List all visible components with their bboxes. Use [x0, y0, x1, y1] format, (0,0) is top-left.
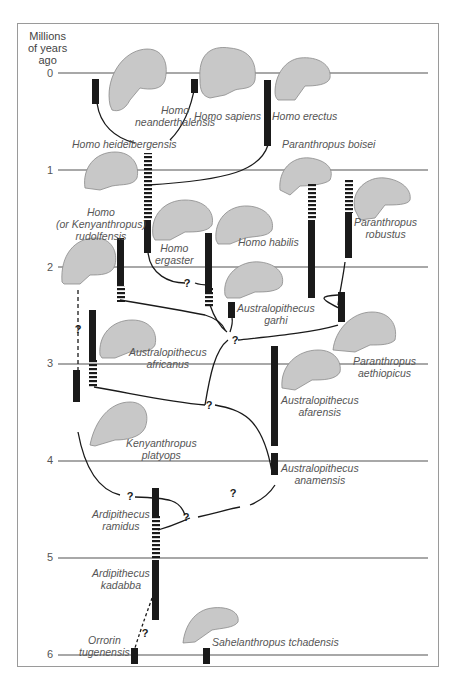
- label-africanus: Australopithecus africanus: [129, 346, 207, 370]
- bar-platyops: [73, 370, 80, 402]
- bar-orrorin: [131, 648, 138, 664]
- label-line: Homo: [155, 242, 194, 254]
- label-garhi: Australopithecus garhi: [237, 302, 315, 326]
- skull-heidelbergensis-icon: [85, 152, 138, 190]
- label-sapiens: Homo sapiens: [194, 110, 261, 122]
- bar-sahelanthropus: [203, 648, 210, 664]
- label-line: africanus: [129, 358, 207, 370]
- svg-text:?: ?: [230, 487, 237, 499]
- label-rudolfensis: Homo (or Kenyanthropus) rudolfensis: [56, 206, 146, 242]
- bar-rudolfensis-solid: [117, 238, 124, 286]
- bar-africanus-solid: [89, 310, 96, 360]
- label-line: ramidus: [92, 520, 150, 532]
- label-line: afarensis: [281, 406, 359, 418]
- label-ramidus: Ardipithecus ramidus: [92, 508, 150, 532]
- bar-ramidus-solid: [152, 488, 159, 516]
- svg-text:?: ?: [184, 277, 191, 289]
- label-line: kadabba: [92, 579, 150, 591]
- phylogeny-canvas: ? ? ? ? ? ? ? ?: [0, 0, 460, 685]
- skull-robustus-icon: [354, 178, 410, 220]
- skull-sapiens-icon: [200, 47, 256, 98]
- bar-boisei-solid: [308, 220, 315, 298]
- label-habilis: Homo habilis: [238, 236, 299, 248]
- label-line: Australopithecus: [281, 462, 359, 474]
- label-line: anamensis: [281, 474, 359, 486]
- bar-garhi: [228, 302, 235, 318]
- label-line: (or Kenyanthropus): [56, 218, 146, 230]
- svg-text:?: ?: [127, 490, 134, 502]
- skull-afarensis-icon: [282, 350, 340, 390]
- bar-anamensis: [271, 453, 278, 475]
- label-boisei: Paranthropus boisei: [282, 138, 375, 150]
- label-afarensis: Australopithecus afarensis: [281, 394, 359, 418]
- label-line: tugenensis: [79, 646, 130, 658]
- label-line: Kenyanthropus: [126, 437, 197, 449]
- label-kadabba: Ardipithecus kadabba: [92, 567, 150, 591]
- bar-habilis-solid: [205, 233, 212, 293]
- svg-text:?: ?: [232, 334, 239, 346]
- label-erectus: Homo erectus: [272, 110, 337, 122]
- label-heidelbergensis: Homo heidelbergensis: [72, 138, 176, 150]
- label-aethiopicus: Paranthropus aethiopicus: [353, 355, 416, 379]
- label-line: platyops: [126, 449, 197, 461]
- label-ergaster: Homo ergaster: [155, 242, 194, 266]
- label-line: ergaster: [155, 254, 194, 266]
- skull-erectus-icon: [275, 58, 330, 100]
- label-line: aethiopicus: [353, 367, 416, 379]
- label-line: robustus: [354, 228, 417, 240]
- label-line: Homo: [56, 206, 146, 218]
- label-sahelanthropus: Sahelanthropus tchadensis: [212, 636, 339, 648]
- label-orrorin: Orrorin tugenensis: [79, 634, 130, 658]
- label-line: Orrorin: [79, 634, 130, 646]
- svg-text:?: ?: [75, 323, 82, 335]
- skull-rudolfensis-icon: [62, 238, 116, 284]
- skull-ergaster-icon: [153, 200, 213, 240]
- label-line: garhi: [237, 314, 315, 326]
- bar-kadabba: [152, 560, 159, 620]
- label-line: Ardipithecus: [92, 567, 150, 579]
- bar-sapiens: [191, 79, 198, 93]
- label-line: Paranthropus: [354, 216, 417, 228]
- bar-robustus-solid: [345, 213, 352, 258]
- svg-text:?: ?: [206, 399, 213, 411]
- label-platyops: Kenyanthropus platyops: [126, 437, 197, 461]
- label-line: Ardipithecus: [92, 508, 150, 520]
- bar-aethiopicus: [338, 292, 345, 322]
- label-line: Australopithecus: [237, 302, 315, 314]
- label-line: Paranthropus: [353, 355, 416, 367]
- label-line: Australopithecus: [129, 346, 207, 358]
- label-robustus: Paranthropus robustus: [354, 216, 417, 240]
- label-line: rudolfensis: [56, 230, 146, 242]
- skull-boisei-icon: [280, 158, 331, 195]
- bar-neanderthalensis: [92, 79, 99, 104]
- label-line: Australopithecus: [281, 394, 359, 406]
- svg-text:?: ?: [142, 627, 149, 639]
- bar-afarensis: [271, 346, 278, 446]
- label-anamensis: Australopithecus anamensis: [281, 462, 359, 486]
- skull-neanderthalensis-icon: [109, 49, 166, 111]
- svg-text:?: ?: [183, 511, 190, 523]
- bar-erectus: [264, 80, 271, 146]
